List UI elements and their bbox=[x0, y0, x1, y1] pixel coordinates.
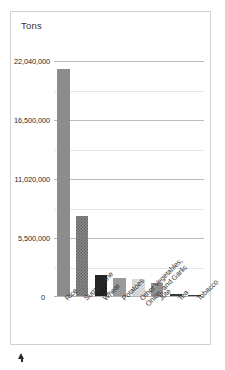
gridline-minor bbox=[54, 209, 204, 210]
y-axis-zero-label: 0 bbox=[41, 293, 45, 302]
y-axis-title: Tons bbox=[21, 20, 42, 31]
bar-sugar-cane bbox=[76, 216, 89, 297]
bar-rice bbox=[57, 69, 70, 297]
y-axis-tick-label: 16,500,000 bbox=[14, 116, 50, 125]
gridline-major bbox=[54, 179, 204, 180]
gridline-minor bbox=[54, 150, 204, 151]
y-axis-tick-label: 5,500,000 bbox=[18, 234, 50, 243]
gridline-minor bbox=[54, 91, 204, 92]
gridline-major bbox=[54, 120, 204, 121]
y-axis-tick-label: 22,040,000 bbox=[14, 57, 50, 66]
y-axis-tick-label: 11,020,000 bbox=[15, 175, 50, 184]
triangle-pointer-stem-icon bbox=[21, 359, 23, 362]
x-axis-category-labels: RiceSugar CaneWheatPotatoesOther Vegetab… bbox=[54, 299, 204, 357]
gridline-major bbox=[54, 61, 204, 62]
